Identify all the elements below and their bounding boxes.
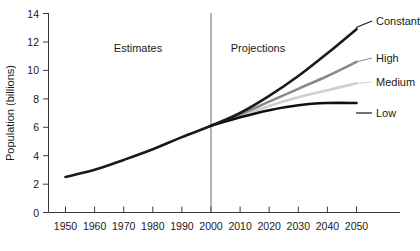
leader-line-medium bbox=[356, 82, 372, 84]
x-tick-label: 1970 bbox=[112, 220, 136, 232]
y-tick-label: 14 bbox=[27, 8, 39, 20]
y-axis-title: Population (billions) bbox=[4, 65, 16, 161]
series-label-low: Low bbox=[376, 107, 396, 119]
leader-line-constant bbox=[356, 21, 372, 28]
y-tick-label: 10 bbox=[27, 64, 39, 76]
population-projection-chart: 0 2 4 6 8 10 12 14 Population (billions) bbox=[0, 0, 420, 251]
x-tick-label: 2000 bbox=[199, 220, 223, 232]
y-tick-label: 12 bbox=[27, 36, 39, 48]
y-tick-label: 8 bbox=[33, 93, 39, 105]
x-tick-label: 1960 bbox=[83, 220, 107, 232]
y-axis-tick-labels: 0 2 4 6 8 10 12 14 bbox=[27, 8, 39, 219]
x-tick-label: 1980 bbox=[141, 220, 165, 232]
x-axis-tick-labels: 1950 1960 1970 1980 1990 2000 2010 2020 … bbox=[54, 220, 369, 232]
x-tick-label: 1990 bbox=[170, 220, 194, 232]
x-tick-label: 2020 bbox=[258, 220, 282, 232]
x-tick-label: 1950 bbox=[54, 220, 78, 232]
x-tick-label: 2030 bbox=[287, 220, 311, 232]
x-tick-label: 2050 bbox=[345, 220, 369, 232]
series-label-medium: Medium bbox=[376, 76, 415, 88]
y-tick-label: 0 bbox=[33, 207, 39, 219]
annotation-estimates: Estimates bbox=[114, 42, 163, 54]
y-axis-ticks bbox=[43, 14, 49, 213]
annotation-projections: Projections bbox=[231, 42, 286, 54]
y-tick-label: 6 bbox=[33, 121, 39, 133]
x-tick-label: 2040 bbox=[316, 220, 340, 232]
chart-canvas: 0 2 4 6 8 10 12 14 Population (billions) bbox=[0, 0, 420, 251]
series-label-high: High bbox=[376, 52, 399, 64]
x-tick-label: 2010 bbox=[228, 220, 252, 232]
series-line-low bbox=[211, 103, 357, 126]
leader-line-high bbox=[356, 58, 372, 62]
y-tick-label: 2 bbox=[33, 178, 39, 190]
series-legend: Constant High Medium Low bbox=[356, 15, 420, 119]
series-label-constant: Constant bbox=[376, 15, 420, 27]
y-tick-label: 4 bbox=[33, 150, 39, 162]
